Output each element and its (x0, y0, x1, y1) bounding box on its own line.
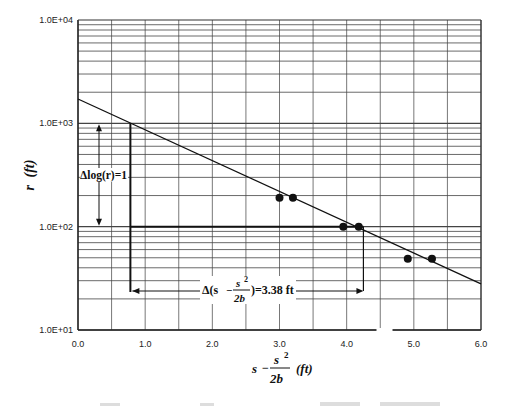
delta-log-label: Δlog(r)=1 (80, 169, 127, 182)
x-axis-denominator: 2b (269, 371, 284, 386)
data-point (289, 194, 297, 202)
delta-x-numerator: s (235, 277, 240, 289)
y-axis-var: r (22, 184, 37, 190)
arrow-down-icon (96, 219, 102, 226)
y-tick-label: 1.0E+04 (39, 15, 73, 25)
delta-log-annotation: Δlog(r)=1 (80, 168, 128, 182)
data-point (428, 255, 436, 263)
chart-svg: 1.0E+011.0E+021.0E+031.0E+04 0.01.02.03.… (0, 0, 508, 406)
x-tick-label: 0.0 (72, 339, 85, 349)
y-axis-unit: (ft) (22, 160, 38, 178)
y-axis-label: r (ft) (22, 160, 38, 191)
y-tick-label: 1.0E+02 (39, 222, 73, 232)
delta-x-minus: − (226, 284, 232, 296)
data-point (404, 255, 412, 263)
x-axis-unit: (ft) (296, 361, 313, 376)
delta-x-prefix: Δ(s (202, 283, 219, 297)
x-axis-label: s − s 2 2b (ft) (251, 350, 313, 386)
data-point (355, 223, 363, 231)
y-tick-labels: 1.0E+011.0E+021.0E+031.0E+04 (39, 15, 73, 335)
y-tick-label: 1.0E+01 (39, 325, 73, 335)
arrow-right-icon (356, 288, 363, 294)
x-tick-label: 2.0 (206, 339, 219, 349)
data-point (276, 194, 284, 202)
x-tick-label: 3.0 (273, 339, 286, 349)
x-tick-label: 4.0 (340, 339, 353, 349)
arrow-left-icon (132, 288, 139, 294)
x-tick-label: 6.0 (475, 339, 488, 349)
x-tick-label: 5.0 (408, 339, 421, 349)
y-tick-label: 1.0E+03 (39, 118, 73, 128)
x-axis-numerator: s (273, 352, 279, 367)
svg-text:r (ft): r (ft) (22, 160, 38, 191)
x-tick-label: 1.0 (139, 339, 152, 349)
cropped-caption-remnant (100, 402, 440, 406)
delta-x-denominator: 2b (233, 292, 246, 304)
annotations (96, 123, 363, 294)
x-axis-superscript: 2 (284, 350, 289, 360)
x-tick-labels: 0.01.02.03.04.05.06.0 (72, 339, 488, 349)
axis-break (377, 328, 392, 332)
delta-x-suffix: )=3.38 ft (251, 283, 294, 297)
delta-x-superscript: 2 (244, 275, 248, 284)
x-axis-s: s (251, 361, 257, 376)
data-point (339, 223, 347, 231)
x-axis-minus: − (262, 361, 269, 375)
delta-x-annotation: Δ(s − s 2 2b )=3.38 ft (200, 275, 296, 304)
